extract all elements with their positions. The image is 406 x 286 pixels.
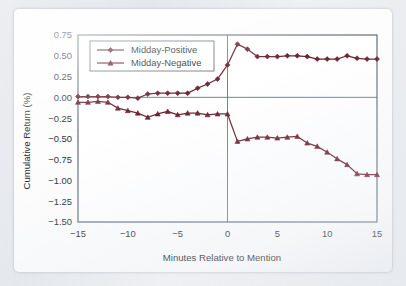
y-tick-label: −1.50 bbox=[48, 216, 72, 227]
y-tick-label: −1.25 bbox=[48, 196, 72, 207]
chart-legend: Midday-PositiveMidday-Negative bbox=[90, 41, 214, 71]
y-tick-label: 0.75 bbox=[54, 29, 72, 40]
legend-label: Midday-Positive bbox=[131, 44, 197, 55]
y-tick-label: −0.50 bbox=[48, 133, 72, 144]
x-tick-label: 15 bbox=[372, 228, 382, 239]
y-tick-label: 0.00 bbox=[54, 92, 72, 103]
y-tick-label: −0.25 bbox=[48, 113, 72, 124]
x-tick-label: 0 bbox=[225, 228, 230, 239]
x-axis-title: Minutes Relative to Mention bbox=[163, 252, 281, 263]
y-tick-label: −1.00 bbox=[48, 175, 72, 186]
y-tick-label: 0.50 bbox=[54, 50, 72, 61]
x-tick-label: −5 bbox=[172, 228, 183, 239]
cumulative-return-line-chart: 0.750.500.250.00−0.25−0.50−0.75−1.00−1.2… bbox=[14, 9, 392, 272]
y-tick-label: −0.75 bbox=[48, 154, 72, 165]
chart-figure: 0.750.500.250.00−0.25−0.50−0.75−1.00−1.2… bbox=[14, 9, 392, 272]
x-tick-label: −15 bbox=[70, 228, 86, 239]
y-axis-tick-labels: 0.750.500.250.00−0.25−0.50−0.75−1.00−1.2… bbox=[48, 29, 72, 227]
x-tick-label: 5 bbox=[275, 228, 280, 239]
y-axis-title: Cumulative Return (%) bbox=[21, 92, 32, 189]
y-tick-label: 0.25 bbox=[54, 71, 72, 82]
legend-label: Midday-Negative bbox=[131, 57, 201, 68]
x-axis-tick-labels: −15−10−5051015 bbox=[70, 228, 382, 239]
x-tick-label: 10 bbox=[322, 228, 332, 239]
x-tick-label: −10 bbox=[120, 228, 136, 239]
